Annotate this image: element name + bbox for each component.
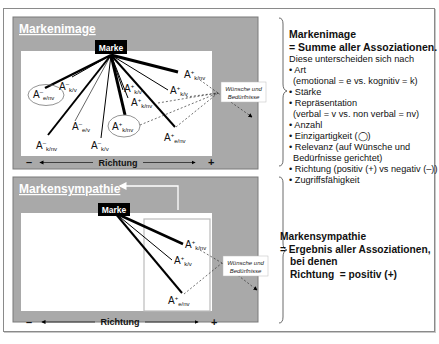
axis-label: Richtung [99,158,138,168]
list-item: • Einzigartigkeit (◯) [289,131,437,142]
axis-plus: + [208,156,214,168]
marke-label: Marke [102,205,127,215]
axis-label: Richtung [101,317,140,327]
marke-label: Marke [99,43,124,53]
list-item: • Richtung (positiv (+) vs negativ (–)) [289,164,437,175]
axis-minus: – [26,316,32,328]
needs-label-line1: Wünsche und [225,86,262,92]
markensympathie-description: Markensympathie = Ergebnis aller Assozia… [280,231,431,281]
panel-title: Markenimage [19,22,96,36]
list-item: • Repräsentation [289,98,437,109]
needs-label-line2: Bedürfnisse [228,94,260,100]
list-item: (verbal = v vs. non verbal = nv) [289,109,437,120]
description-title: Markenimage [289,28,437,41]
panel-title: Markensympathie [19,182,121,196]
list-item: • Relevanz (auf Wünsche und [289,142,437,153]
list-item: • Stärke [289,87,437,98]
list-item: • Zugriffsfähigkeit [289,175,437,186]
markensympathie-panel: Markensympathie Marke A+k/nv A+k/v A+e/n… [13,177,268,328]
list-item: (emotional = e vs. kognitiv = k) [289,76,437,87]
needs-label-line2: Bedürfnisse [230,268,262,274]
axis-minus: – [26,156,32,168]
brace-icon [279,18,287,166]
description-line: Richtung = positiv (+) [280,269,431,282]
list-item: Bedürfnisse gerichtet) [289,153,437,164]
description-line: bei denen [280,256,431,269]
needs-label-line1: Wünsche und [227,260,264,266]
axis-plus: + [211,316,217,328]
description-title: Markensympathie [280,231,431,244]
markenimage-panel: Markenimage Marke A–e/nv A–k/v A–e/v [13,17,266,169]
list-item: • Anzahl [289,120,437,131]
description-line: = Ergebnis aller Assoziationen, [280,244,431,257]
list-item: • Art [289,65,437,76]
description-intro: Diese unterscheiden sich nach [289,54,437,65]
markenimage-description: Markenimage = Summe aller Assoziationen.… [289,28,437,186]
description-subtitle: = Summe aller Assoziationen. [289,41,437,54]
